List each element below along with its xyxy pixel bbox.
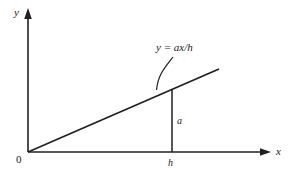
height-label: a <box>177 116 182 126</box>
base-label: h <box>168 158 173 168</box>
x-axis <box>28 148 271 156</box>
equation-label: y = ax/h <box>156 42 193 53</box>
origin-label: 0 <box>16 154 22 165</box>
x-axis-label: x <box>276 146 281 157</box>
x-axis-arrowhead-icon <box>260 148 271 156</box>
leader-curve <box>157 57 174 90</box>
function-line <box>28 69 219 152</box>
linear-function-diagram: y x 0 a h y = ax/h <box>0 0 293 180</box>
y-axis-label: y <box>14 7 19 18</box>
y-axis <box>24 8 32 152</box>
y-axis-arrowhead-icon <box>24 8 32 19</box>
diagram-canvas <box>0 0 293 180</box>
